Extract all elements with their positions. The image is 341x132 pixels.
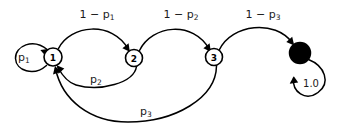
edge-state2-to-state3 [140, 29, 211, 51]
edge-state1-to-state2-path [59, 29, 129, 49]
node-state-2[interactable]: 2 [126, 50, 143, 67]
edge-state1-to-state2 [59, 29, 130, 52]
edge-state3-to-state1-path [56, 66, 217, 122]
node-state-3[interactable]: 3 [206, 49, 223, 66]
edge-label-state3-to-state1: p3 [140, 105, 152, 119]
node-state-1[interactable]: 1 [44, 48, 62, 66]
edge-label-self-loop-state1: p1 [18, 51, 30, 65]
edge-label-state1-to-state2: 1 − p1 [80, 8, 115, 22]
edge-label-state3-to-absorbing-sub: 3 [276, 13, 281, 22]
edge-state3-to-absorbing [220, 27, 295, 49]
edge-state2-to-state3-path [140, 29, 210, 50]
edge-label-self-loop-state1-sub: 1 [25, 56, 30, 65]
edge-state3-to-absorbing-path [220, 27, 293, 49]
arrowhead-self-loop-absorbing [290, 76, 299, 84]
edge-label-self-loop-state1-main: p [18, 51, 25, 64]
edge-state3-to-state1 [53, 66, 217, 122]
node-absorbing-state[interactable] [290, 43, 311, 64]
node-state-1-label: 1 [50, 53, 56, 63]
edge-label-state3-to-absorbing-main: 1 − p [246, 8, 276, 21]
node-state-2-label: 2 [131, 54, 137, 64]
edge-label-self-loop-absorbing: 1.0 [303, 78, 319, 89]
node-absorbing-state-circle[interactable] [290, 43, 311, 64]
edge-label-state2-to-state3-main: 1 − p [164, 8, 194, 21]
edge-label-state1-to-state2-sub: 1 [110, 13, 115, 22]
markov-chain-diagram: 1 2 3 p1 1 − p1 p2 1 − p2 p3 [0, 0, 341, 132]
edge-label-state2-to-state3-sub: 2 [194, 13, 199, 22]
node-state-3-label: 3 [211, 53, 217, 63]
state-transition-graph: 1 2 3 p1 1 − p1 p2 1 − p2 p3 [0, 0, 341, 132]
edge-label-state2-to-state3: 1 − p2 [164, 8, 199, 22]
edge-label-state3-to-state1-main: p [140, 105, 147, 118]
edge-label-state2-to-state1: p2 [90, 73, 102, 87]
edge-label-state2-to-state1-main: p [90, 73, 97, 86]
edge-label-state1-to-state2-main: 1 − p [80, 8, 110, 21]
edge-label-state3-to-absorbing: 1 − p3 [246, 8, 281, 22]
edge-label-state3-to-state1-sub: 3 [147, 110, 152, 119]
edge-label-state2-to-state1-sub: 2 [97, 78, 102, 87]
